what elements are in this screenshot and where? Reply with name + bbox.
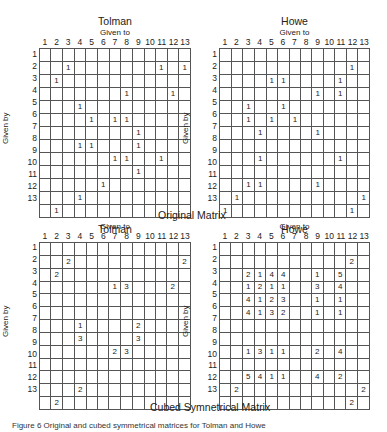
matrix-cell xyxy=(109,307,121,320)
matrix-cell: 1 xyxy=(242,345,254,358)
matrix-cell xyxy=(254,140,266,153)
matrix-cell xyxy=(242,243,254,256)
row-header: 12 xyxy=(23,180,37,192)
matrix-cell xyxy=(156,320,167,333)
matrix-cell: 3 xyxy=(121,345,133,358)
matrix-cell xyxy=(62,153,74,166)
matrix-cell xyxy=(266,166,278,179)
matrix-cell xyxy=(300,243,311,256)
matrix-cell xyxy=(98,345,109,358)
matrix-cell xyxy=(63,320,75,333)
row-header: 7 xyxy=(203,313,217,325)
matrix-cell xyxy=(243,166,255,179)
matrix-cell xyxy=(311,332,323,345)
matrix-cell xyxy=(40,114,51,127)
matrix-cell xyxy=(98,397,109,410)
matrix-cell xyxy=(231,101,243,114)
matrix-cell xyxy=(358,255,370,268)
matrix-cell xyxy=(266,332,278,345)
matrix-cell: 3 xyxy=(254,345,266,358)
tolman-cubed-grid: 22213212332322 xyxy=(39,242,191,410)
matrix-cell xyxy=(300,384,311,397)
matrix-cell xyxy=(346,294,358,307)
matrix-row: 2 xyxy=(40,384,191,397)
matrix-cell xyxy=(266,243,278,256)
matrix-cell xyxy=(40,166,51,179)
matrix-cell xyxy=(97,88,109,101)
matrix-cell xyxy=(40,75,51,88)
matrix-cell xyxy=(121,332,133,345)
matrix-cell xyxy=(243,127,255,140)
matrix-row: 131124 xyxy=(220,345,370,358)
matrix-cell xyxy=(266,320,278,333)
given-to-label: Given to xyxy=(219,222,370,231)
matrix-cell xyxy=(358,153,370,166)
matrix-cell xyxy=(289,166,301,179)
matrix-cell xyxy=(144,153,155,166)
matrix-cell xyxy=(289,49,301,62)
row-header: 5 xyxy=(203,96,217,108)
matrix-cell xyxy=(278,114,290,127)
row-header: 7 xyxy=(23,313,37,325)
matrix-cell: 1 xyxy=(109,153,121,166)
matrix-cell xyxy=(323,307,334,320)
matrix-row: 111 xyxy=(40,153,191,166)
matrix-cell xyxy=(40,307,51,320)
matrix-cell xyxy=(254,192,266,205)
matrix-cell xyxy=(144,62,155,75)
matrix-cell: 1 xyxy=(133,140,145,153)
matrix-row: 1 xyxy=(40,101,191,114)
matrix-cell xyxy=(97,153,109,166)
matrix-cell xyxy=(167,62,179,75)
matrix-cell xyxy=(86,49,98,62)
matrix-row xyxy=(40,294,191,307)
matrix-cell xyxy=(167,192,179,205)
matrix-cell xyxy=(335,205,347,218)
tolman-original-grid: 111111111111111111111 xyxy=(39,48,191,218)
matrix-row: 11 xyxy=(40,88,191,101)
matrix-cell: 1 xyxy=(277,371,289,384)
matrix-row: 2 xyxy=(220,255,370,268)
matrix-cell xyxy=(346,166,358,179)
matrix-cell xyxy=(167,243,179,256)
matrix-cell xyxy=(51,384,63,397)
matrix-cell xyxy=(254,243,266,256)
matrix-cell xyxy=(40,332,51,345)
matrix-cell xyxy=(243,140,255,153)
matrix-cell xyxy=(312,75,324,88)
matrix-cell xyxy=(98,320,109,333)
matrix-cell xyxy=(109,192,121,205)
matrix-cell xyxy=(63,243,75,256)
column-header: 9 xyxy=(133,231,145,241)
matrix-cell xyxy=(346,320,358,333)
matrix-cell xyxy=(231,127,243,140)
matrix-cell xyxy=(132,281,144,294)
matrix-row: 111 xyxy=(40,114,191,127)
matrix-cell xyxy=(144,140,155,153)
matrix-cell xyxy=(74,166,86,179)
matrix-cell xyxy=(133,114,145,127)
matrix-cell xyxy=(278,179,290,192)
matrix-cell xyxy=(323,268,334,281)
matrix-cell xyxy=(334,255,346,268)
matrix-cell xyxy=(324,140,335,153)
matrix-cell xyxy=(97,127,109,140)
matrix-cell xyxy=(51,243,63,256)
matrix-cell xyxy=(40,320,51,333)
matrix-cell xyxy=(144,332,155,345)
matrix-cell xyxy=(109,75,121,88)
matrix-cell: 2 xyxy=(266,294,278,307)
matrix-cell xyxy=(144,345,155,358)
matrix-cell xyxy=(40,294,51,307)
matrix-cell xyxy=(266,358,278,371)
matrix-cell xyxy=(323,358,334,371)
matrix-cell xyxy=(323,320,334,333)
matrix-cell xyxy=(40,101,51,114)
matrix-cell xyxy=(324,88,335,101)
matrix-cell: 4 xyxy=(334,345,346,358)
matrix-cell: 1 xyxy=(266,75,278,88)
matrix-row: 1 xyxy=(40,166,191,179)
matrix-cell xyxy=(133,49,145,62)
matrix-cell xyxy=(323,281,334,294)
matrix-cell: 1 xyxy=(311,268,323,281)
